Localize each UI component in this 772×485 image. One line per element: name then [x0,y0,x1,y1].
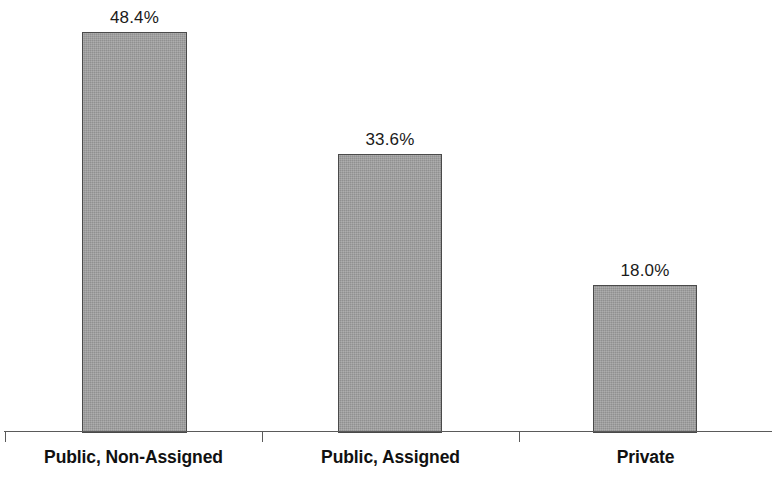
x-axis-category-labels: Public, Non-Assigned Public, Assigned Pr… [0,447,772,485]
bar-1[interactable] [338,154,442,433]
bar-value-label-1: 33.6% [338,130,442,150]
bar-group-0: 48.4% [82,0,187,433]
x-axis-label-2: Private [519,447,772,468]
bar-group-2: 18.0% [593,0,697,433]
bar-0[interactable] [82,32,187,433]
x-axis-label-0: Public, Non-Assigned [5,447,262,468]
bar-value-label-0: 48.4% [82,8,187,28]
x-axis-tick-1 [262,432,263,442]
bar-group-1: 33.6% [338,0,442,433]
x-axis-label-1: Public, Assigned [262,447,519,468]
bar-2[interactable] [593,285,697,433]
x-axis-line [4,431,772,432]
bar-chart: 48.4% 33.6% 18.0% Public, Non-Assigned P… [0,0,772,485]
bar-value-label-2: 18.0% [593,261,697,281]
x-axis-tick-start [5,432,6,442]
x-axis-tick-2 [519,432,520,442]
plot-area: 48.4% 33.6% 18.0% [0,0,772,433]
